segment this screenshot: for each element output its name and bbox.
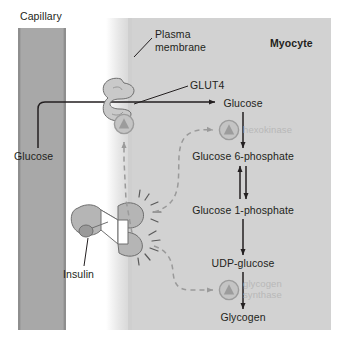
capillary-wall-left bbox=[18, 28, 20, 330]
activation-symbol-glut4 bbox=[114, 114, 133, 133]
figure-glucose-metabolism: Capillary Plasma membrane Myocyte GLUT4 … bbox=[0, 0, 349, 346]
capillary-wall-right bbox=[64, 28, 66, 330]
capillary-label: Capillary bbox=[20, 10, 62, 23]
plasma-membrane-label: Plasma membrane bbox=[155, 28, 206, 53]
metabolite-glucose-1-phosphate: Glucose 1-phosphate bbox=[192, 204, 294, 217]
metabolite-udp-glucose: UDP-glucose bbox=[212, 257, 275, 270]
plasma-membrane-label-line1: Plasma bbox=[155, 28, 191, 40]
capillary-region bbox=[18, 28, 66, 330]
plasma-membrane-inner-edge bbox=[128, 18, 132, 330]
enzyme-label-hexokinase: hexokinase bbox=[243, 125, 292, 136]
insulin-leader-line bbox=[84, 238, 88, 266]
metabolite-glycogen: Glycogen bbox=[220, 311, 265, 324]
glut4-label: GLUT4 bbox=[190, 79, 224, 92]
plasma-membrane-band bbox=[106, 18, 130, 330]
plasma-membrane-label-line2: membrane bbox=[155, 41, 206, 53]
enzyme-label-glycogen-synthase-line1: glycogen bbox=[243, 278, 282, 289]
activation-symbol-glycogen-synthase bbox=[219, 280, 238, 299]
blood-glucose-label: Glucose bbox=[14, 150, 53, 163]
enzyme-label-glycogen-synthase: glycogen synthase bbox=[243, 279, 282, 300]
activation-symbol-hexokinase bbox=[219, 120, 238, 139]
metabolite-glucose-6-phosphate: Glucose 6-phosphate bbox=[192, 150, 294, 163]
metabolite-glucose: Glucose bbox=[223, 97, 262, 110]
enzyme-label-glycogen-synthase-line2: synthase bbox=[243, 289, 282, 300]
myocyte-label: Myocyte bbox=[270, 37, 313, 50]
insulin-label: Insulin bbox=[63, 268, 94, 281]
